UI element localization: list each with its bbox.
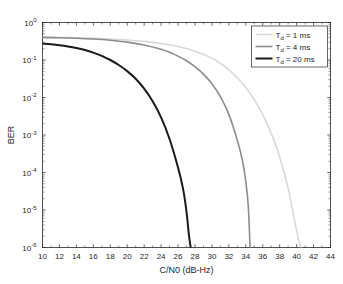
x-tick-label: 18 xyxy=(106,252,115,261)
y-axis-title: BER xyxy=(6,125,16,144)
x-tick-label: 38 xyxy=(275,252,284,261)
x-tick-label: 26 xyxy=(174,252,183,261)
x-tick-label: 42 xyxy=(309,252,318,261)
chart-plot-area: 1012141618202224262830323436384042441001… xyxy=(0,0,343,284)
x-tick-label: 36 xyxy=(258,252,267,261)
chart-legend: Td = 1 msTd = 4 msTd = 20 ms xyxy=(252,26,328,67)
x-tick-label: 14 xyxy=(72,252,81,261)
x-tick-label: 32 xyxy=(224,252,233,261)
x-tick-label: 40 xyxy=(292,252,301,261)
x-tick-label: 10 xyxy=(38,252,47,261)
x-tick-label: 22 xyxy=(140,252,149,261)
x-tick-label: 24 xyxy=(157,252,166,261)
figure-canvas: 1012141618202224262830323436384042441001… xyxy=(0,0,343,284)
x-tick-label: 12 xyxy=(55,252,64,261)
x-tick-label: 30 xyxy=(207,252,216,261)
x-tick-label: 16 xyxy=(89,252,98,261)
ber-vs-cn0-chart: 1012141618202224262830323436384042441001… xyxy=(0,0,343,284)
x-tick-label: 34 xyxy=(241,252,250,261)
x-axis-title: C/N0 (dB-Hz) xyxy=(159,265,213,275)
x-tick-label: 44 xyxy=(326,252,335,261)
x-tick-label: 20 xyxy=(123,252,132,261)
x-tick-label: 28 xyxy=(191,252,200,261)
